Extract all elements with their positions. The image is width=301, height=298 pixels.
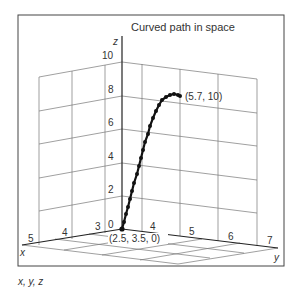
y-axis-label: y bbox=[273, 252, 280, 263]
z-tick-6: 6 bbox=[108, 117, 114, 128]
figure-caption: x, y, z bbox=[18, 276, 43, 287]
x-axis-label: x bbox=[19, 247, 26, 258]
z-tick-8: 8 bbox=[108, 84, 114, 95]
end-point-label: (5.7, 10) bbox=[185, 91, 222, 102]
chart-svg: Curved path in space bbox=[0, 0, 301, 298]
y-tick-5: 5 bbox=[189, 226, 195, 237]
z-tick-labels: 0 2 4 6 8 10 bbox=[102, 50, 114, 230]
z-axis-label: z bbox=[112, 36, 118, 47]
x-tick-5: 5 bbox=[28, 233, 34, 244]
z-tick-10: 10 bbox=[102, 50, 114, 61]
y-tick-6: 6 bbox=[228, 231, 234, 242]
y-tick-labels: 4 5 6 7 bbox=[150, 221, 273, 246]
axes bbox=[22, 36, 278, 248]
chart-title: Curved path in space bbox=[131, 21, 235, 33]
z-tick-4: 4 bbox=[108, 151, 114, 162]
origin-label: (2.5, 3.5, 0) bbox=[109, 233, 160, 244]
y-tick-4: 4 bbox=[150, 221, 156, 232]
chart-figure: Curved path in space bbox=[0, 0, 301, 298]
curve-path bbox=[122, 94, 180, 229]
z-tick-2: 2 bbox=[108, 184, 114, 195]
x-tick-3: 3 bbox=[95, 221, 101, 232]
curve-markers bbox=[119, 92, 182, 232]
z-tick-0: 0 bbox=[108, 219, 114, 230]
x-tick-4: 4 bbox=[62, 227, 68, 238]
y-tick-7: 7 bbox=[267, 235, 273, 246]
